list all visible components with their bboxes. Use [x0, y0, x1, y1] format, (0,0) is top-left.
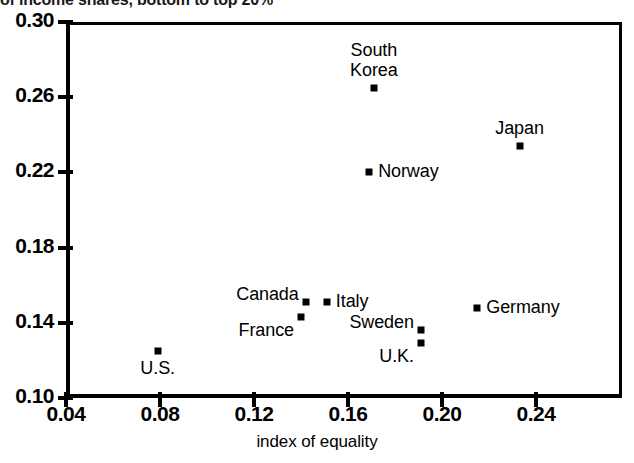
data-point-south-korea[interactable] — [370, 84, 377, 91]
point-label-italy: Italy — [336, 291, 369, 311]
point-label-norway: Norway — [378, 161, 438, 181]
plot-area — [66, 22, 622, 398]
data-point-sweden[interactable] — [417, 327, 424, 334]
point-label-u.k.: U.K. — [379, 346, 414, 366]
x-axis-label: index of equality — [0, 432, 634, 452]
x-tick-label-1: 0.08 — [120, 402, 200, 426]
point-label-south-korea: South Korea — [350, 40, 398, 80]
point-label-canada: Canada — [236, 284, 298, 304]
x-tick-label-4: 0.20 — [402, 402, 482, 426]
y-tick-label-3: 0.18 — [0, 234, 54, 258]
x-tick-label-3: 0.16 — [308, 402, 388, 426]
data-point-norway[interactable] — [366, 169, 373, 176]
y-tick-label-4: 0.14 — [0, 309, 54, 333]
x-tick-label-5: 0.24 — [496, 402, 576, 426]
point-label-germany: Germany — [486, 297, 559, 317]
point-label-france: France — [239, 320, 294, 340]
y-axis-tick-4 — [58, 321, 73, 325]
data-point-u.s.[interactable] — [154, 348, 161, 355]
y-axis-tick-0 — [58, 20, 73, 24]
scatter-chart-figure: of income shares, bottom to top 20% 0.30… — [0, 0, 634, 463]
data-point-u.k.[interactable] — [417, 340, 424, 347]
x-tick-label-2: 0.12 — [214, 402, 294, 426]
data-point-japan[interactable] — [516, 143, 523, 150]
y-axis-tick-2 — [58, 170, 73, 174]
data-point-germany[interactable] — [474, 304, 481, 311]
data-point-canada[interactable] — [302, 299, 309, 306]
y-tick-label-0: 0.30 — [0, 8, 54, 32]
data-point-italy[interactable] — [323, 299, 330, 306]
y-tick-label-1: 0.26 — [0, 83, 54, 107]
x-tick-label-0: 0.04 — [26, 402, 106, 426]
y-axis-tick-1 — [58, 95, 73, 99]
data-point-france[interactable] — [298, 314, 305, 321]
y-axis-tick-3 — [58, 246, 73, 250]
point-label-japan: Japan — [495, 118, 544, 138]
y-tick-label-2: 0.22 — [0, 158, 54, 182]
point-label-sweden: Sweden — [349, 312, 413, 332]
point-label-u.s.: U.S. — [140, 358, 175, 378]
